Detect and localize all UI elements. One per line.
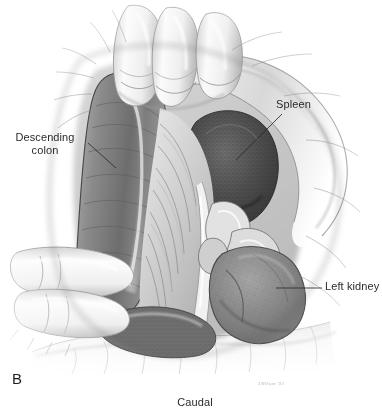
orientation-label-caudal: Caudal <box>150 396 240 409</box>
label-descending-colon: Descending colon <box>6 131 84 157</box>
label-left-kidney: Left kidney <box>325 280 382 293</box>
surgical-illustration <box>0 0 382 415</box>
label-spleen: Spleen <box>276 98 336 111</box>
figure-panel: Descending colon Spleen Left kidney B Ca… <box>0 0 382 415</box>
artist-signature: LWilson '93 <box>248 377 294 390</box>
left-kidney-shape <box>209 247 305 344</box>
panel-letter: B <box>12 372 22 385</box>
